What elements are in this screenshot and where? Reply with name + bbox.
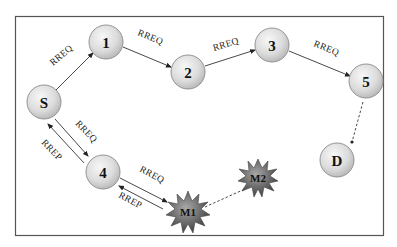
node-3: 3	[255, 28, 289, 62]
node-4: 4	[86, 155, 120, 189]
node-2-label: 2	[184, 65, 192, 81]
node-s: S	[27, 85, 61, 119]
node-1-label: 1	[102, 35, 110, 51]
node-2: 2	[171, 55, 205, 89]
node-4-label: 4	[99, 165, 107, 181]
aodv-diagram: RREQ RREQ RREQ RREQ RREQ RREP RREQ RREP …	[0, 0, 397, 247]
node-m1-label: M1	[180, 206, 196, 218]
node-m2-label: M2	[250, 172, 266, 184]
node-3-label: 3	[268, 38, 276, 54]
node-5-label: 5	[362, 74, 370, 90]
node-d: D	[320, 143, 354, 177]
node-1: 1	[89, 25, 123, 59]
node-5: 5	[349, 64, 383, 98]
node-d-label: D	[332, 153, 343, 169]
node-s-label: S	[40, 95, 48, 111]
